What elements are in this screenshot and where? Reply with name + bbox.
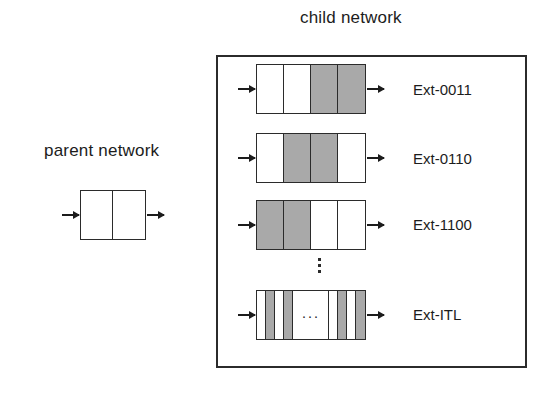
block-ext-0110 <box>256 133 366 183</box>
vertical-ellipsis-icon <box>316 258 322 273</box>
cell-1 <box>284 201 311 249</box>
child-network-row-ext-0011 <box>238 64 384 114</box>
arrow-right-icon <box>62 214 79 216</box>
cell-3 <box>338 134 365 182</box>
cell-2 <box>275 291 284 339</box>
arrow-right-icon <box>238 224 255 226</box>
arrow-right-icon <box>367 314 384 316</box>
block-ext-itl: ··· <box>256 290 366 340</box>
cell-1 <box>266 291 275 339</box>
parent-network-title: parent network <box>44 141 159 161</box>
label-ext-itl: Ext-ITL <box>413 306 461 323</box>
arrow-right-icon <box>238 157 255 159</box>
cell-0 <box>257 134 284 182</box>
cell-0 <box>257 201 284 249</box>
child-network-row-ext-1100 <box>238 200 384 250</box>
cell-0 <box>257 291 266 339</box>
cell-2 <box>311 134 338 182</box>
arrow-right-icon <box>238 314 255 316</box>
cell-1 <box>284 134 311 182</box>
label-ext-0011: Ext-0011 <box>413 81 472 98</box>
child-network-title: child network <box>300 8 402 28</box>
cell-3 <box>338 201 365 249</box>
cell-6 <box>338 291 347 339</box>
cell-2 <box>311 201 338 249</box>
child-network-row-ext-itl: ··· <box>238 290 384 340</box>
cell-3 <box>284 291 293 339</box>
parent-network-block <box>80 190 146 240</box>
label-ext-1100: Ext-1100 <box>413 216 472 233</box>
cell-1 <box>284 65 311 113</box>
arrow-right-icon <box>238 88 255 90</box>
diagram-canvas: child network parent network Ext-0011 <box>0 0 560 397</box>
label-ext-0110: Ext-0110 <box>413 150 472 167</box>
arrow-right-icon <box>367 157 384 159</box>
parent-network-row <box>62 190 164 240</box>
block-ext-0011 <box>256 64 366 114</box>
child-network-row-ext-0110 <box>238 133 384 183</box>
cell-0 <box>257 65 284 113</box>
arrow-right-icon <box>147 214 164 216</box>
parent-cell-0 <box>81 191 113 239</box>
arrow-right-icon <box>367 88 384 90</box>
horizontal-ellipsis-icon: ··· <box>302 308 320 323</box>
arrow-right-icon <box>367 224 384 226</box>
cell-3 <box>338 65 365 113</box>
cell-2 <box>311 65 338 113</box>
cell-7 <box>347 291 356 339</box>
parent-cell-1 <box>113 191 145 239</box>
cell-gap: ··· <box>293 291 329 339</box>
block-ext-1100 <box>256 200 366 250</box>
cell-5 <box>329 291 338 339</box>
cell-8 <box>356 291 365 339</box>
